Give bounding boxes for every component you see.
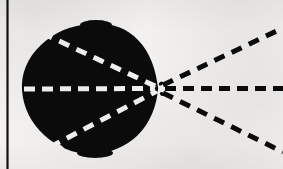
lobe-bump-top [80, 20, 112, 30]
figure-canvas: Scanned diagram: dark lobe with convergi… [0, 0, 283, 169]
left-margin-rule [6, 0, 8, 169]
vertex-fleck-center [155, 86, 158, 91]
lobe-bump-bottom [77, 148, 113, 158]
figure-svg: Scanned diagram: dark lobe with convergi… [0, 0, 283, 169]
